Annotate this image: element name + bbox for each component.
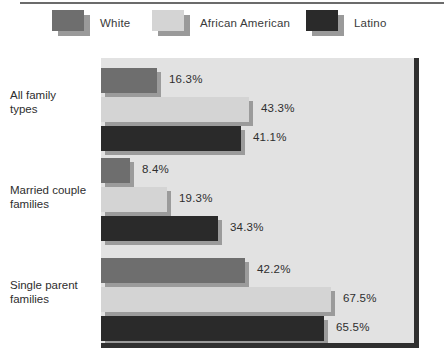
bar-value-label: 67.5% bbox=[343, 292, 377, 304]
bar-fill bbox=[101, 216, 218, 241]
chart-screenshot: WhiteAfrican AmericanLatino 16.3%43.3%41… bbox=[0, 0, 444, 358]
category-label-line: families bbox=[10, 197, 100, 211]
bar-latino[interactable]: 65.5% bbox=[101, 316, 330, 341]
bar-value-label: 65.5% bbox=[336, 321, 370, 333]
bar-white[interactable]: 8.4% bbox=[101, 158, 136, 183]
legend-swatch-fill bbox=[52, 10, 84, 31]
category-label-line: types bbox=[10, 102, 100, 116]
bar-fill bbox=[101, 68, 157, 93]
bar-fill bbox=[101, 187, 167, 212]
legend-item-white[interactable]: White bbox=[52, 10, 130, 40]
bar-fill bbox=[101, 97, 249, 122]
bar-latino[interactable]: 34.3% bbox=[101, 216, 224, 241]
legend-item-african-american[interactable]: African American bbox=[152, 10, 290, 40]
legend-label: Latino bbox=[354, 17, 387, 29]
legend-swatch-fill bbox=[152, 10, 184, 31]
plot-right-axis-line bbox=[414, 58, 419, 348]
bar-value-label: 41.1% bbox=[253, 131, 287, 143]
legend-label: African American bbox=[200, 17, 290, 29]
bar-fill bbox=[101, 158, 130, 183]
plot-area: 16.3%43.3%41.1%8.4%19.3%34.3%42.2%67.5%6… bbox=[101, 58, 418, 345]
bar-white[interactable]: 42.2% bbox=[101, 258, 251, 283]
top-divider-rule bbox=[20, 2, 444, 4]
bar-fill bbox=[101, 287, 331, 312]
chart-legend: WhiteAfrican AmericanLatino bbox=[0, 10, 444, 44]
legend-swatch-icon bbox=[52, 10, 92, 36]
bar-value-label: 43.3% bbox=[261, 102, 295, 114]
bar-value-label: 19.3% bbox=[179, 192, 213, 204]
legend-swatch-icon bbox=[306, 10, 346, 36]
category-label-line: Single parent bbox=[10, 278, 100, 292]
bar-african-american[interactable]: 43.3% bbox=[101, 97, 255, 122]
bar-value-label: 8.4% bbox=[142, 163, 169, 175]
bar-african-american[interactable]: 67.5% bbox=[101, 287, 337, 312]
category-label-0: All familytypes bbox=[10, 88, 100, 116]
bar-african-american[interactable]: 19.3% bbox=[101, 187, 173, 212]
bar-fill bbox=[101, 126, 241, 151]
legend-swatch-fill bbox=[306, 10, 338, 31]
category-label-line: All family bbox=[10, 88, 100, 102]
legend-item-latino[interactable]: Latino bbox=[306, 10, 387, 40]
category-label-line: Married couple bbox=[10, 183, 100, 197]
bar-latino[interactable]: 41.1% bbox=[101, 126, 247, 151]
bar-fill bbox=[101, 316, 324, 341]
category-label-1: Married couplefamilies bbox=[10, 183, 100, 211]
category-label-line: families bbox=[10, 292, 100, 306]
bar-value-label: 34.3% bbox=[230, 221, 264, 233]
bar-white[interactable]: 16.3% bbox=[101, 68, 163, 93]
bar-fill bbox=[101, 258, 245, 283]
legend-swatch-icon bbox=[152, 10, 192, 36]
plot-bottom-axis-line bbox=[101, 343, 419, 348]
legend-label: White bbox=[100, 17, 130, 29]
bar-value-label: 42.2% bbox=[257, 263, 291, 275]
bar-value-label: 16.3% bbox=[169, 73, 203, 85]
category-label-2: Single parentfamilies bbox=[10, 278, 100, 306]
